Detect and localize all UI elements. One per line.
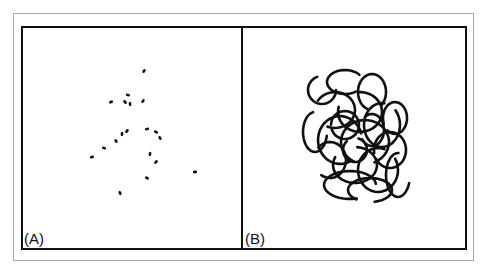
scatter-dash (153, 159, 158, 164)
scatter-dash (153, 130, 158, 134)
panel-b-label: (B) (245, 231, 265, 246)
scatter-dash (89, 155, 94, 159)
scatter-dash (145, 127, 150, 131)
trajectory-loop (343, 139, 367, 163)
scatter-dash (126, 93, 131, 97)
trajectory-loop (374, 132, 406, 168)
scatter-dash (101, 146, 106, 150)
scatter-dash (193, 170, 198, 173)
trajectory-loop (303, 112, 327, 152)
scatter-dash (120, 132, 123, 137)
scatter-dash (158, 135, 163, 140)
trajectory-loop (327, 70, 359, 94)
scatter-dash (114, 138, 119, 143)
scatter-dash (148, 152, 151, 157)
trajectory-loop (383, 102, 407, 134)
scatter-dash (129, 102, 132, 106)
figure-canvas (0, 0, 488, 270)
scatter-dash (142, 68, 147, 73)
scatter-dash (125, 128, 130, 133)
panel-a-scatter (89, 68, 197, 195)
scatter-dash (123, 99, 128, 104)
scatter-dash (141, 98, 146, 103)
scatter-dash (108, 100, 113, 104)
scatter-dash (144, 176, 149, 181)
panel-a-label: (A) (24, 231, 44, 246)
panel-b-tangle (303, 70, 409, 202)
scatter-dash (118, 190, 122, 195)
